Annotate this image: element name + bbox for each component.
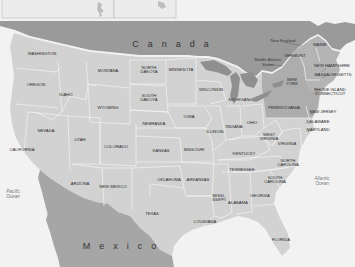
state-label: TENNESSEE: [229, 168, 254, 172]
inset-box-hawaii: [114, 0, 176, 18]
country-label-mexico: Mexico: [83, 241, 166, 251]
state-label: RHODE ISLAND CONNECTICUT: [314, 88, 345, 97]
state-label: PENNSYLVANIA: [268, 106, 300, 110]
state-label: MASSACHUSETTS: [314, 73, 351, 77]
region-label-middle-atlantic: Middle Atlantic States: [255, 58, 282, 67]
state-label: COLORADO: [104, 145, 128, 149]
state-label: NEW HAMPSHIRE: [314, 64, 350, 68]
state-label: WYOMING: [98, 106, 119, 110]
state-label: WISCONSIN: [199, 88, 223, 92]
state-label: ARIZONA: [71, 182, 90, 186]
ocean-label-atlantic: Atlantic Ocean: [314, 176, 329, 186]
state-label: NEBRASKA: [143, 122, 166, 126]
region-label-new-england: New England: [271, 39, 296, 44]
state-label: KENTUCKY: [233, 152, 256, 156]
state-label: UTAH: [74, 138, 85, 142]
state-label: GEORGIA: [250, 194, 270, 198]
state-label: NEW YORK: [286, 78, 298, 87]
state-label: NORTH DAKOTA: [141, 66, 158, 75]
state-label: VERMONT: [285, 54, 306, 58]
state-label: ILLINOIS: [206, 130, 223, 134]
state-label: TEXAS: [145, 212, 159, 216]
state-label: WASHINGTON: [28, 52, 57, 56]
state-label: ALABAMA: [228, 201, 248, 205]
state-label: INDIANA: [226, 125, 243, 129]
state-label: FLORIDA: [272, 238, 290, 242]
state-label: SOUTH CAROLINA: [264, 176, 285, 185]
state-label: LOUISIANA: [194, 220, 216, 224]
state-label: NORTH CAROLINA: [277, 159, 298, 168]
state-label: MAINE: [313, 43, 326, 47]
state-label: SOUTH DAKOTA: [141, 94, 158, 103]
state-label: OHIO: [247, 121, 258, 125]
state-label: NEW MEXICO: [99, 185, 126, 189]
state-label: MISSI- SSIPPI: [212, 194, 226, 203]
state-label: MINNESOTA: [169, 68, 194, 72]
state-label: CALIFORNIA: [9, 148, 34, 152]
state-label: MICHIGAN: [229, 98, 250, 102]
state-label: IOWA: [183, 115, 194, 119]
state-label: NEVADA: [38, 129, 55, 133]
state-label: MISSOURI: [184, 148, 205, 152]
state-label: MARYLAND: [306, 128, 329, 132]
state-label: KANSAS: [153, 149, 170, 153]
state-label: NEW JERSEY: [309, 110, 336, 114]
state-label: IDAHO: [59, 93, 72, 97]
state-label: ARKANSAS: [187, 178, 210, 182]
ocean-label-pacific: Pacific Ocean: [6, 189, 20, 199]
state-label: WEST VIRGINIA: [260, 133, 278, 142]
state-label: OREGON: [27, 83, 46, 87]
state-label: OKLAHOMA: [157, 178, 181, 182]
state-label: VIRGINIA: [278, 142, 296, 146]
country-label-canada: Canada: [132, 39, 218, 49]
state-label: DELAWARE: [306, 120, 329, 124]
state-label: MONTANA: [98, 69, 119, 73]
